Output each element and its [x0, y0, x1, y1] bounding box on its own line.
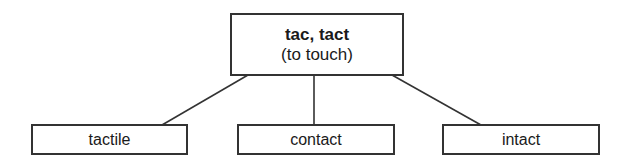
child-node-contact: contact	[237, 124, 395, 155]
root-subtitle: (to touch)	[281, 45, 353, 65]
root-title: tac, tact	[285, 25, 349, 45]
child-label: intact	[502, 131, 540, 149]
connector-intact	[392, 75, 481, 125]
child-label: tactile	[89, 131, 131, 149]
root-node: tac, tact (to touch)	[230, 13, 404, 76]
child-node-tactile: tactile	[31, 124, 188, 155]
child-label: contact	[290, 131, 342, 149]
connector-tactile	[162, 75, 248, 125]
child-node-intact: intact	[442, 124, 600, 155]
